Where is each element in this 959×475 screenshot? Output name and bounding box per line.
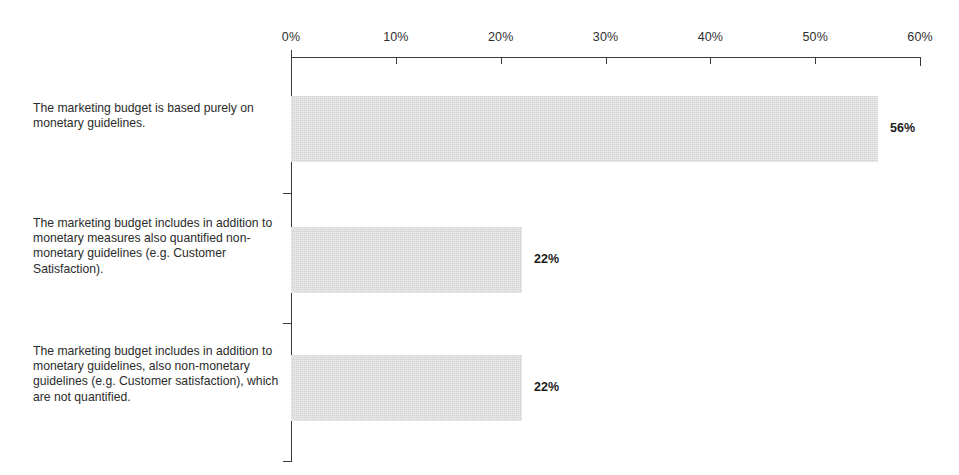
x-tick-label-30: 30%	[593, 30, 618, 44]
category-label-3: The marketing budget includes in additio…	[33, 344, 283, 405]
bar-3	[291, 355, 522, 421]
y-axis-tick-1	[283, 193, 292, 194]
bar-chart: 0% 10% 20% 30% 40% 50% 60% The marketing…	[0, 0, 959, 475]
x-tick-label-40: 40%	[698, 30, 723, 44]
category-label-1: The marketing budget is based purely on …	[33, 101, 283, 131]
x-axis-tick-30	[606, 57, 607, 64]
x-axis-tick-10	[396, 57, 397, 64]
x-tick-label-10: 10%	[383, 30, 408, 44]
x-axis-tick-20	[501, 57, 502, 64]
x-tick-label-20: 20%	[488, 30, 513, 44]
bar-2	[291, 227, 522, 293]
bar-value-1: 56%	[890, 121, 915, 135]
bar-1	[291, 96, 878, 162]
x-axis-tick-60	[920, 57, 921, 66]
y-axis-tick-3	[283, 461, 292, 462]
bar-value-3: 22%	[534, 380, 559, 394]
x-axis-tick-50	[815, 57, 816, 64]
y-axis-tick-2	[283, 323, 292, 324]
x-tick-label-50: 50%	[803, 30, 828, 44]
x-tick-label-0: 0%	[282, 30, 300, 44]
x-tick-label-60: 60%	[907, 30, 932, 44]
x-axis-tick-40	[710, 57, 711, 64]
category-label-2: The marketing budget includes in additio…	[33, 216, 283, 277]
bar-value-2: 22%	[534, 252, 559, 266]
